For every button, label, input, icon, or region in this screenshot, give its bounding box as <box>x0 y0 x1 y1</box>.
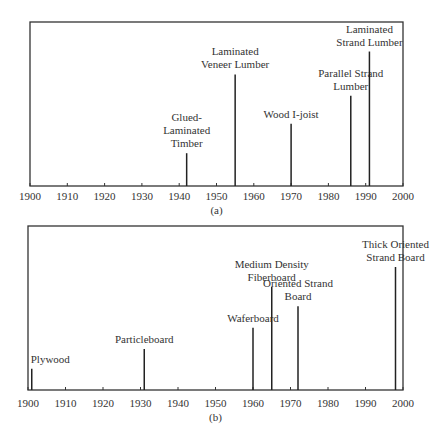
event-label: Parallel Strand <box>318 67 384 79</box>
x-tick-label: 1960 <box>242 397 265 409</box>
x-tick-label: 1920 <box>94 190 117 202</box>
x-tick-label: 1930 <box>131 190 154 202</box>
x-tick-label: 1940 <box>167 397 190 409</box>
event-label: Lumber <box>333 80 368 92</box>
event-label: Board <box>285 290 312 302</box>
x-tick-label: 2000 <box>392 190 415 202</box>
x-tick-label: 1990 <box>355 190 378 202</box>
x-tick-label: 1970 <box>280 397 303 409</box>
event-label: Plywood <box>31 353 71 365</box>
event-label: Glued- <box>171 111 202 123</box>
x-tick-label: 2000 <box>392 397 415 409</box>
event-label: Wood I-joist <box>264 108 319 120</box>
event-label: Thick Oriented <box>362 238 429 250</box>
plot-frame-1 <box>28 226 403 390</box>
event-label: Particleboard <box>115 333 174 345</box>
x-tick-label: 1910 <box>56 190 79 202</box>
x-tick-label: 1900 <box>19 190 42 202</box>
x-tick-label: 1930 <box>130 397 153 409</box>
event-label: Laminated <box>346 23 394 35</box>
event-label: Laminated <box>163 124 211 136</box>
x-tick-label: 1920 <box>92 397 115 409</box>
event-label: Timber <box>171 137 203 149</box>
x-tick-label: 1990 <box>355 397 378 409</box>
x-tick-label: 1970 <box>280 190 303 202</box>
event-label: Oriented Strand <box>263 277 333 289</box>
x-tick-label: 1950 <box>205 397 228 409</box>
timeline-figure: 1900191019201930194019501960197019801990… <box>0 0 431 444</box>
event-label: Veneer Lumber <box>201 58 269 70</box>
event-label: Medium Density <box>235 258 310 270</box>
x-tick-label: 1940 <box>168 190 191 202</box>
x-tick-label: 1960 <box>243 190 266 202</box>
event-label: Laminated <box>212 45 260 57</box>
x-tick-label: 1910 <box>55 397 78 409</box>
event-label: Strand Board <box>366 251 425 263</box>
panel-caption: (b) <box>209 411 222 424</box>
x-tick-label: 1950 <box>206 190 229 202</box>
x-tick-label: 1980 <box>317 397 340 409</box>
x-tick-label: 1980 <box>317 190 340 202</box>
x-tick-label: 1900 <box>17 397 40 409</box>
panel-caption: (a) <box>210 204 223 217</box>
event-label: Strand Lumber <box>336 36 403 48</box>
